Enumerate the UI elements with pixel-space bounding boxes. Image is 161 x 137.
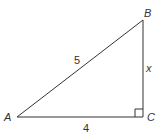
side-label-ac: 4 [83, 122, 89, 134]
side-label-ab: 5 [74, 54, 80, 66]
right-angle-marker [135, 109, 143, 117]
triangle-diagram: A B C 5 x 4 [0, 0, 161, 137]
triangle-abc [17, 20, 143, 117]
side-label-bc: x [145, 62, 152, 74]
vertex-label-b: B [144, 7, 151, 19]
vertex-label-c: C [147, 111, 155, 123]
vertex-label-a: A [3, 111, 11, 123]
